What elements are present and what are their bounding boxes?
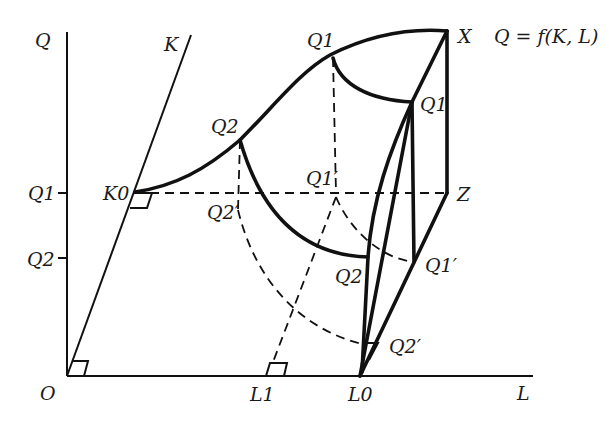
right-angle-origin <box>72 361 88 376</box>
k0-label: K0 <box>102 182 129 204</box>
q2-isoquant-surface <box>240 140 368 257</box>
q2-curve-label: Q2 <box>211 115 239 137</box>
q1-top-label: Q1 <box>307 29 335 51</box>
equation-label: Q = f(K, L) <box>494 25 598 47</box>
q2-tick-label: Q2 <box>27 248 55 270</box>
k-axis <box>67 35 191 376</box>
q1-prime-right-label: Q1′ <box>425 254 458 276</box>
l0-tick-label: L0 <box>347 383 373 405</box>
x-label: X <box>456 25 473 47</box>
q2-prime-left-label: Q2′ <box>207 201 240 223</box>
z-label: Z <box>456 183 471 205</box>
q1-vertical-edge <box>412 102 414 262</box>
l-axis-label: L <box>516 382 530 404</box>
diagram-svg: Q K O L Q1 Q2 L1 L0 K0 X Z Q1 Q1 Q2 Q2 Q… <box>0 0 614 424</box>
q-axis-label: Q <box>35 29 51 51</box>
q2-prime-right-label: Q2′ <box>389 335 422 357</box>
l1-tick-label: L1 <box>249 383 275 405</box>
q1-tick-label: Q1 <box>28 182 56 204</box>
q1-isoquant-surface <box>333 58 412 102</box>
q2-projection-dashed <box>238 140 240 210</box>
q2-lower-label: Q2 <box>335 265 363 287</box>
origin-label: O <box>40 382 56 404</box>
right-angle-l1 <box>266 363 287 376</box>
q1-right-label: Q1 <box>420 93 448 115</box>
x-l0-edge-upper <box>360 31 447 376</box>
k-axis-label: K <box>163 33 180 55</box>
production-surface-diagram: Q K O L Q1 Q2 L1 L0 K0 X Z Q1 Q1 Q2 Q2 Q… <box>0 0 614 424</box>
q1-prime-center-label: Q1′ <box>306 167 339 189</box>
